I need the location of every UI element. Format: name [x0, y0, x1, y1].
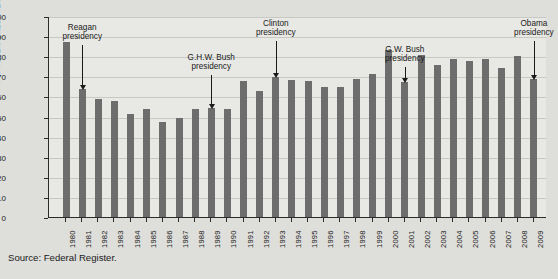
bar-2008 — [514, 56, 521, 217]
annotation-text: G.H.W. Bushpresidency — [188, 53, 235, 72]
x-axis-tick-mark — [517, 218, 518, 222]
source-note: Source: Federal Register. — [8, 252, 117, 263]
x-axis-tick-mark — [113, 218, 114, 222]
x-axis-tick-mark — [162, 218, 163, 222]
annotation-text: Clintonpresidency — [256, 19, 296, 38]
annotation-label-line1: G.H.W. Bush — [188, 53, 235, 62]
y-axis-tick-mark — [44, 37, 48, 38]
x-axis-tick-label-2000: 2000 — [391, 230, 400, 248]
x-axis-tick-mark — [178, 218, 179, 222]
plot-area: ReaganpresidencyG.H.W. BushpresidencyCli… — [48, 17, 546, 218]
y-axis-tick-mark — [44, 97, 48, 98]
x-axis-tick-mark — [388, 218, 389, 222]
y-axis-tick-mark — [44, 218, 48, 219]
annotation-label-line2: presidency — [514, 28, 554, 37]
bar-1985 — [143, 109, 150, 217]
bar-1995 — [305, 81, 312, 217]
bar-1989 — [208, 108, 215, 217]
bar-2000 — [385, 50, 392, 217]
y-axis-tick-mark — [44, 77, 48, 78]
y-axis-tick-mark — [44, 138, 48, 139]
y-axis-tick-label: 10 — [0, 193, 6, 202]
y-axis-tick-mark — [44, 178, 48, 179]
annotation-label-line2: presidency — [188, 62, 235, 71]
bar-1990 — [224, 109, 231, 217]
x-axis-tick-label-2008: 2008 — [520, 230, 529, 248]
x-axis-tick-mark — [501, 218, 502, 222]
chart-figure: ReaganpresidencyG.H.W. BushpresidencyCli… — [0, 0, 558, 279]
bar-1999 — [369, 74, 376, 217]
bar-1982 — [95, 99, 102, 217]
bar-1983 — [111, 101, 118, 217]
x-axis-tick-mark — [194, 218, 195, 222]
annotation-text: Obamapresidency — [514, 19, 554, 38]
bar-1992 — [256, 91, 263, 217]
x-axis-tick-mark — [323, 218, 324, 222]
x-axis-tick-mark — [468, 218, 469, 222]
annotation-arrow-head — [80, 85, 86, 90]
y-axis-tick-mark — [44, 198, 48, 199]
x-axis-tick-label-1993: 1993 — [278, 230, 287, 248]
x-axis-tick-mark — [307, 218, 308, 222]
bar-2002 — [418, 55, 425, 217]
x-axis-tick-label-2005: 2005 — [471, 230, 480, 248]
bar-2005 — [466, 61, 473, 217]
annotation-arrow-stem — [276, 41, 277, 73]
x-axis-tick-label-2004: 2004 — [455, 230, 464, 248]
x-axis-tick-mark — [243, 218, 244, 222]
y-axis-tick-label: 20 — [0, 173, 6, 182]
x-axis-tick-label-2006: 2006 — [488, 230, 497, 248]
annotation-label-line1: Clinton — [256, 19, 296, 28]
bar-1980 — [63, 42, 70, 217]
x-axis-tick-label-1987: 1987 — [181, 230, 190, 248]
y-axis-tick-mark — [44, 158, 48, 159]
x-axis-tick-label-1991: 1991 — [246, 230, 255, 248]
annotation-label-line1: Reagan — [62, 23, 102, 32]
bar-1998 — [353, 79, 360, 217]
x-axis-tick-label-1986: 1986 — [165, 230, 174, 248]
y-axis-tick-label: 50 — [0, 113, 6, 122]
x-axis-tick-mark — [275, 218, 276, 222]
x-axis-tick-mark — [533, 218, 534, 222]
x-axis-tick-mark — [146, 218, 147, 222]
y-axis-title: # OF FEDERAL REGISTER PAGES (in 1000s) — [0, 0, 1, 84]
annotation-arrow-head — [273, 73, 279, 78]
y-axis-tick-label: 0 — [0, 214, 6, 223]
x-axis-tick-mark — [355, 218, 356, 222]
annotation-arrow-stem — [82, 45, 83, 85]
annotation-label-line1: Obama — [514, 19, 554, 28]
x-axis-tick-mark — [226, 218, 227, 222]
x-axis-tick-mark — [65, 218, 66, 222]
x-axis-tick-label-1992: 1992 — [262, 230, 271, 248]
x-axis-tick-label-1989: 1989 — [213, 230, 222, 248]
x-axis-tick-label-1982: 1982 — [100, 230, 109, 248]
annotation-arrow-head — [531, 75, 537, 80]
x-axis-tick-mark — [436, 218, 437, 222]
x-axis-tick-label-1997: 1997 — [342, 230, 351, 248]
x-axis-tick-label-1980: 1980 — [68, 230, 77, 248]
bar-2007 — [498, 68, 505, 217]
x-axis-tick-label-1981: 1981 — [84, 230, 93, 248]
annotation-label-line2: presidency — [385, 54, 425, 63]
x-axis-tick-mark — [339, 218, 340, 222]
annotation-arrow-head — [209, 104, 215, 109]
x-axis-tick-label-2009: 2009 — [536, 230, 545, 248]
annotation-arrow-head — [402, 78, 408, 83]
annotation-text: G.W. Bushpresidency — [385, 45, 425, 64]
bar-1996 — [321, 87, 328, 217]
bar-1997 — [337, 87, 344, 217]
bar-1991 — [240, 81, 247, 217]
bar-2003 — [434, 65, 441, 217]
x-axis-tick-label-1994: 1994 — [294, 230, 303, 248]
annotation-arrow-stem — [211, 75, 212, 104]
x-axis-tick-label-1985: 1985 — [149, 230, 158, 248]
y-axis-tick-label: 40 — [0, 133, 6, 142]
x-axis-tick-mark — [291, 218, 292, 222]
x-axis-tick-label-1996: 1996 — [326, 230, 335, 248]
x-axis-tick-mark — [81, 218, 82, 222]
annotation-label-line2: presidency — [62, 32, 102, 41]
x-axis-tick-label-2003: 2003 — [439, 230, 448, 248]
x-axis-tick-mark — [452, 218, 453, 222]
bar-2006 — [482, 59, 489, 217]
x-axis-tick-label-1988: 1988 — [197, 230, 206, 248]
